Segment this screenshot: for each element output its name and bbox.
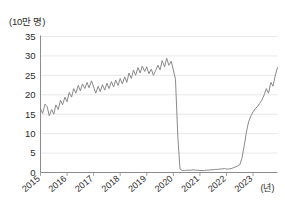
- x-tick-label: 2015: [20, 173, 42, 194]
- x-tick-label: 2017: [73, 173, 95, 194]
- x-tick-label: 2016: [47, 173, 69, 194]
- y-tick-label: 25: [25, 70, 36, 81]
- x-tick-label: 2022: [206, 173, 228, 194]
- gridlines: [41, 37, 278, 154]
- line-chart-plot: 05101520253035 2015201620172018201920202…: [0, 0, 285, 213]
- y-tick-label: 20: [25, 89, 36, 100]
- y-tick-label: 10: [25, 128, 36, 139]
- x-tick-label: 2019: [126, 173, 148, 194]
- y-tick-label: 15: [25, 109, 36, 120]
- x-tick-label: 2020: [153, 173, 175, 194]
- x-tick-label: 2023: [233, 173, 255, 194]
- y-tick-label: 30: [25, 50, 36, 61]
- x-tick-label: 2021: [179, 173, 201, 194]
- y-tick-label: 35: [25, 31, 36, 42]
- x-tick-label: 2018: [100, 173, 122, 194]
- y-axis-tick-labels: 05101520253035: [25, 31, 36, 178]
- y-tick-label: 5: [30, 147, 35, 158]
- x-axis-tick-labels: 201520162017201820192020202120222023: [20, 173, 254, 194]
- chart-container: (10만 명) 05101520253035 20152016201720182…: [0, 0, 285, 213]
- x-axis-unit-label: (년): [261, 183, 275, 193]
